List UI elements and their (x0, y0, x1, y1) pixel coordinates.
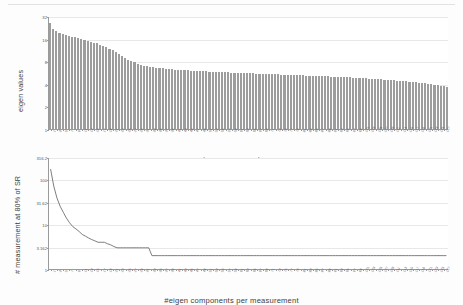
y-tick-mark (47, 107, 49, 108)
y-tick-mark (47, 130, 49, 131)
x-tick-label: 1 (52, 269, 56, 273)
x-tick-label: 9 (77, 269, 81, 273)
gridline (49, 17, 448, 18)
line-series-path (51, 169, 447, 256)
x-tick-label: 5 (64, 129, 68, 133)
y-tick-mark (47, 40, 49, 41)
y-axis-title-top: eigen values (16, 70, 25, 112)
x-tick-label: 1 (52, 129, 56, 133)
plot-area-bottom: 13.1621031.62100316.21357911131517192123… (48, 158, 448, 270)
bar (446, 87, 448, 129)
figure-page: eigen values 124816321357911131517192123… (0, 0, 463, 305)
x-tick-label: 7 (70, 269, 74, 273)
y-tick-mark (47, 270, 49, 271)
plot-canvas-top (49, 17, 448, 129)
x-tick-label: 9 (77, 129, 81, 133)
gridline (49, 40, 448, 41)
measurement-decay-line (49, 158, 448, 269)
y-tick-mark (47, 17, 49, 18)
x-tick-label: 127 (445, 265, 451, 272)
x-tick-label: 5 (64, 269, 68, 273)
y-tick-mark (47, 203, 49, 204)
y-tick-mark (47, 248, 49, 249)
y-tick-mark (47, 62, 49, 63)
page-edge-divider (8, 4, 455, 5)
x-tick-label: 7 (70, 129, 74, 133)
plot-canvas-bottom (49, 158, 448, 269)
y-tick-mark (47, 158, 49, 159)
x-tick-label: 3 (58, 269, 62, 273)
x-axis-title-bottom: #eigen components per measurement (0, 296, 463, 305)
y-tick-mark (47, 180, 49, 181)
x-tick-label: 3 (58, 129, 62, 133)
y-axis-title-bottom: # measurement at 80% of SR (13, 176, 22, 274)
x-tick-label: 127 (445, 125, 451, 132)
measurements-figure: # measurement at 80% of SR 13.1621031.62… (0, 152, 463, 305)
y-tick-mark (47, 225, 49, 226)
y-tick-mark (47, 85, 49, 86)
plot-area-top: 1248163213579111315171921232527293133353… (48, 17, 448, 130)
eigen-values-figure: eigen values 124816321357911131517192123… (0, 8, 463, 152)
